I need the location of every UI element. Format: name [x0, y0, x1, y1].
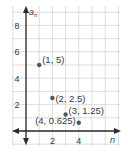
- x-tick-label: 4: [76, 136, 81, 146]
- tick-labels: 246824: [14, 21, 81, 146]
- y-axis-label: an: [29, 7, 38, 18]
- point-label: (4, 0.625): [35, 115, 76, 126]
- x-tick-label: 2: [50, 136, 55, 146]
- x-axis-right-arrow-icon: [114, 128, 121, 134]
- x-axis-label: n: [110, 135, 115, 145]
- scatter-chart: 246824 an n (1, 5)(2, 2.5)(3, 1.25)(4, 0…: [0, 0, 128, 154]
- data-point: [50, 96, 54, 100]
- y-tick-label: 6: [14, 47, 19, 57]
- y-tick-label: 2: [14, 100, 19, 110]
- point-label: (1, 5): [42, 54, 64, 65]
- y-tick-label: 8: [14, 21, 19, 31]
- data-point: [77, 121, 81, 125]
- y-tick-label: 4: [14, 74, 19, 84]
- data-point: [37, 63, 41, 67]
- point-label: (2, 2.5): [55, 93, 85, 104]
